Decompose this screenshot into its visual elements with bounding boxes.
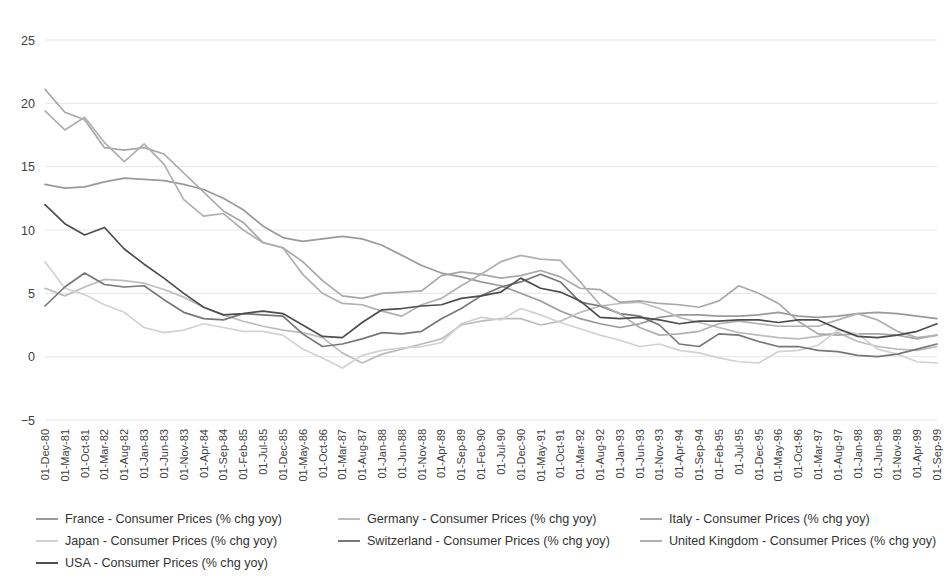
x-axis-tick-label: 01-May-91 xyxy=(535,429,547,482)
legend-color-swatch xyxy=(640,518,662,520)
x-axis-tick-label: 01-Sep-84 xyxy=(217,429,229,480)
x-axis-tick-label: 01-Jul-85 xyxy=(257,429,269,475)
y-axis-tick-label: 20 xyxy=(21,97,35,111)
legend-color-swatch xyxy=(36,562,58,564)
x-axis-tick-label: 01-May-86 xyxy=(297,429,309,482)
x-axis-tick-label: 01-Jul-90 xyxy=(495,429,507,475)
gridlines xyxy=(45,40,937,420)
chart-legend: France - Consumer Prices (% chg yoy)Germ… xyxy=(36,508,942,578)
series-lines xyxy=(45,89,937,368)
x-axis-tick-label: 01-Oct-81 xyxy=(79,429,91,478)
y-axis-tick-label: 0 xyxy=(28,350,35,364)
x-axis-tick-label: 01-Feb-90 xyxy=(475,429,487,480)
x-axis-tick-label: 01-Mar-92 xyxy=(574,429,586,480)
x-axis-tick-label: 01-Apr-99 xyxy=(911,429,923,478)
x-axis-tick-label: 01-Oct-86 xyxy=(317,429,329,478)
legend-item[interactable]: Japan - Consumer Prices (% chg yoy) xyxy=(36,530,338,552)
x-axis-tick-label: 01-Nov-83 xyxy=(178,429,190,480)
x-axis-tick-label: 01-Jan-98 xyxy=(852,429,864,479)
legend-item[interactable]: France - Consumer Prices (% chg yoy) xyxy=(36,508,338,530)
x-axis-tick-label: 01-Nov-93 xyxy=(653,429,665,480)
legend-label: USA - Consumer Prices (% chg yoy) xyxy=(65,556,268,570)
inflation-line-chart: −50510152025 01-Dec-8001-May-8101-Oct-81… xyxy=(0,0,949,583)
x-axis-tick-label: 01-Aug-97 xyxy=(832,429,844,480)
x-axis-tick-label: 01-Feb-95 xyxy=(713,429,725,480)
x-axis-tick-label: 01-Sep-94 xyxy=(693,429,705,480)
legend-color-swatch xyxy=(338,518,360,520)
series-line xyxy=(45,111,937,338)
x-axis-tick-label: 01-May-81 xyxy=(59,429,71,482)
y-axis-tick-label: 25 xyxy=(21,34,35,48)
legend-item[interactable]: Germany - Consumer Prices (% chg yoy) xyxy=(338,508,640,530)
legend-label: United Kingdom - Consumer Prices (% chg … xyxy=(669,534,936,548)
x-axis-tick-label: 01-Feb-85 xyxy=(237,429,249,480)
x-axis-tick-label: 01-Dec-95 xyxy=(753,429,765,480)
legend-color-swatch xyxy=(36,518,58,520)
x-axis-tick-label: 01-Mar-82 xyxy=(98,429,110,480)
x-axis-tick-labels: 01-Dec-8001-May-8101-Oct-8101-Mar-8201-A… xyxy=(39,429,943,482)
y-axis-tick-labels: −50510152025 xyxy=(21,34,35,428)
legend-item[interactable]: USA - Consumer Prices (% chg yoy) xyxy=(36,552,338,574)
x-axis-tick-label: 01-Aug-82 xyxy=(118,429,130,480)
series-line xyxy=(45,89,937,339)
legend-item[interactable]: United Kingdom - Consumer Prices (% chg … xyxy=(640,530,942,552)
x-axis-tick-label: 01-Oct-96 xyxy=(792,429,804,478)
x-axis-tick-label: 01-Aug-87 xyxy=(356,429,368,480)
x-axis-tick-label: 01-Sep-89 xyxy=(455,429,467,480)
series-line xyxy=(45,262,937,368)
x-axis-tick-label: 01-Jun-93 xyxy=(634,429,646,479)
x-axis-tick-label: 01-Nov-88 xyxy=(416,429,428,480)
legend-color-swatch xyxy=(36,540,58,542)
y-axis-tick-label: 10 xyxy=(21,224,35,238)
y-axis-tick-label: 5 xyxy=(28,287,35,301)
x-axis-tick-label: 01-Dec-90 xyxy=(515,429,527,480)
x-axis-tick-label: 01-Jan-83 xyxy=(138,429,150,479)
x-axis-tick-label: 01-Jun-88 xyxy=(396,429,408,479)
series-line xyxy=(45,273,937,357)
legend-item[interactable]: Italy - Consumer Prices (% chg yoy) xyxy=(640,508,942,530)
y-axis-tick-label: 15 xyxy=(21,160,35,174)
y-axis-tick-label: −5 xyxy=(21,414,35,428)
legend-label: Switzerland - Consumer Prices (% chg yoy… xyxy=(367,534,610,548)
x-axis-tick-label: 01-Oct-91 xyxy=(554,429,566,478)
legend-color-swatch xyxy=(640,540,662,542)
x-axis-tick-label: 01-Nov-98 xyxy=(891,429,903,480)
series-line xyxy=(45,205,937,338)
x-axis-tick-label: 01-Dec-80 xyxy=(39,429,51,480)
legend-color-swatch xyxy=(338,540,360,542)
x-axis-tick-label: 01-Jul-95 xyxy=(733,429,745,475)
x-axis-tick-label: 01-Apr-94 xyxy=(673,429,685,478)
x-axis-tick-label: 01-Sep-99 xyxy=(931,429,943,480)
x-axis-tick-label: 01-Jan-93 xyxy=(614,429,626,479)
x-axis-tick-label: 01-Jun-98 xyxy=(872,429,884,479)
chart-container: −50510152025 01-Dec-8001-May-8101-Oct-81… xyxy=(0,0,949,583)
x-axis-tick-label: 01-Aug-92 xyxy=(594,429,606,480)
x-axis-tick-label: 01-Apr-84 xyxy=(198,429,210,478)
x-axis-tick-label: 01-Mar-87 xyxy=(336,429,348,480)
legend-label: Japan - Consumer Prices (% chg yoy) xyxy=(65,534,277,548)
x-axis-tick-label: 01-Apr-89 xyxy=(435,429,447,478)
x-axis-tick-label: 01-Jun-83 xyxy=(158,429,170,479)
x-axis-tick-label: 01-Mar-97 xyxy=(812,429,824,480)
x-axis-tick-label: 01-May-96 xyxy=(772,429,784,482)
series-line xyxy=(45,178,937,327)
legend-label: France - Consumer Prices (% chg yoy) xyxy=(65,512,282,526)
x-axis-tick-label: 01-Dec-85 xyxy=(277,429,289,480)
legend-item[interactable]: Switzerland - Consumer Prices (% chg yoy… xyxy=(338,530,640,552)
legend-label: Germany - Consumer Prices (% chg yoy) xyxy=(367,512,597,526)
legend-label: Italy - Consumer Prices (% chg yoy) xyxy=(669,512,870,526)
x-axis-tick-label: 01-Jan-88 xyxy=(376,429,388,479)
